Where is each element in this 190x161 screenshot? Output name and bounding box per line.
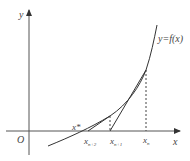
newton-method-diagram: y x O y=f(x) x* xn+2 xn+1 xn	[0, 0, 190, 161]
tangent-at-xn	[110, 70, 146, 131]
xn2-label: xn+2	[83, 136, 97, 147]
xn-label: xn	[142, 135, 150, 146]
tangent-at-xn1	[88, 116, 110, 131]
y-axis-label: y	[18, 9, 24, 20]
curve-f	[48, 25, 157, 146]
xn1-label: xn+1	[109, 136, 122, 147]
curve-label: y=f(x)	[157, 33, 184, 45]
x-axis-label: x	[172, 136, 178, 147]
root-label: x*	[71, 122, 81, 132]
origin-label: O	[17, 134, 24, 145]
